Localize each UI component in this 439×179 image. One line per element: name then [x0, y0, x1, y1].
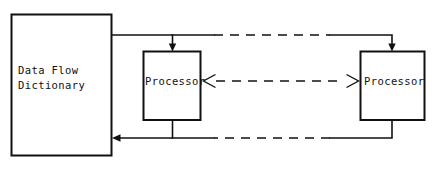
top-connector [112, 35, 396, 52]
arrowhead-down-left-processor [169, 44, 176, 52]
arrowhead-down-right-processor [388, 44, 395, 52]
diagram-canvas: Data Flow Dictionary Processor Processor [0, 0, 439, 179]
processor-left-label: Processor [145, 75, 206, 87]
processor-right-label: Processor [364, 75, 425, 87]
middle-connector [204, 75, 359, 88]
dictionary-label-line1: Data Flow [18, 64, 79, 76]
arrowhead-left-into-dictionary [112, 134, 121, 141]
bottom-connector-solid-right [330, 120, 392, 138]
arrowhead-open-right [347, 75, 359, 88]
dictionary-label-line2: Dictionary [18, 79, 85, 91]
top-connector-solid-right [330, 35, 392, 45]
bottom-connector [112, 120, 392, 142]
diagram-svg: Data Flow Dictionary Processor Processor [0, 0, 439, 179]
